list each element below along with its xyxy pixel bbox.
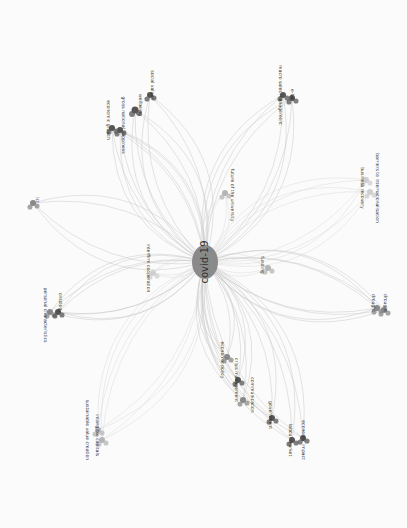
edge bbox=[132, 110, 205, 262]
edge bbox=[135, 110, 205, 262]
keyword-node[interactable]: macro sales management bbox=[277, 65, 289, 125]
node-circle bbox=[27, 204, 32, 209]
keyword-node[interactable]: ict bbox=[27, 197, 39, 209]
node-label: communication bbox=[250, 377, 255, 413]
center-node-label: covid-19 bbox=[199, 241, 210, 284]
network-diagram: economic growthgross national happinessw… bbox=[0, 0, 407, 528]
node-circle bbox=[239, 380, 244, 385]
node-circle bbox=[34, 203, 39, 208]
node-label: drought bbox=[383, 294, 388, 312]
edge bbox=[142, 95, 205, 262]
node-label: macro sales management bbox=[278, 65, 283, 125]
keyword-node[interactable]: social values bbox=[144, 70, 156, 101]
node-circle bbox=[144, 96, 149, 101]
keyword-node[interactable]: government bbox=[266, 401, 278, 429]
keyword-node[interactable]: economic policy bbox=[220, 341, 234, 378]
edge bbox=[205, 262, 292, 440]
edge bbox=[58, 262, 205, 319]
node-label: gross national happiness bbox=[121, 96, 126, 154]
keyword-node[interactable]: economic impact bbox=[297, 420, 309, 460]
node-circle bbox=[378, 311, 383, 316]
node-circle bbox=[219, 194, 224, 199]
keyword-node[interactable]: business recovery bbox=[360, 167, 373, 209]
node-label: e-bar bbox=[290, 89, 295, 101]
edge bbox=[205, 95, 286, 262]
node-label: ict bbox=[35, 197, 40, 203]
node-label: drought bbox=[371, 294, 376, 312]
keyword-node[interactable]: future of the university bbox=[219, 169, 234, 222]
edge bbox=[120, 130, 205, 262]
node-label: interfirm cooperation bbox=[146, 244, 151, 293]
node-circle bbox=[52, 313, 57, 318]
node-label: personal characteristics bbox=[43, 288, 48, 344]
edge bbox=[205, 250, 384, 310]
edge bbox=[101, 262, 205, 440]
node-circle bbox=[273, 418, 278, 423]
node-circle bbox=[269, 268, 274, 273]
node-label: social values bbox=[150, 70, 155, 100]
edge bbox=[205, 262, 292, 440]
node-circle bbox=[244, 400, 249, 405]
keyword-node[interactable]: interfirm cooperation bbox=[146, 244, 160, 293]
node-label: intangible capitals bbox=[95, 414, 100, 457]
keyword-node[interactable]: gross national happiness bbox=[114, 96, 126, 154]
node-label: future of the university bbox=[230, 169, 235, 222]
edge bbox=[202, 95, 283, 262]
node-circle bbox=[237, 401, 242, 406]
node-label: business recovery bbox=[360, 167, 365, 209]
edge bbox=[120, 130, 205, 262]
node-label: sustainable value creation bbox=[85, 400, 90, 461]
edge bbox=[205, 262, 276, 418]
edge bbox=[102, 262, 205, 440]
edge bbox=[102, 262, 206, 440]
keyword-node[interactable]: wellbeing bbox=[129, 94, 143, 117]
edge bbox=[148, 95, 205, 262]
node-label: economic policy bbox=[220, 341, 225, 378]
node-circle bbox=[59, 312, 64, 317]
edge bbox=[33, 195, 205, 262]
edge bbox=[102, 262, 205, 440]
node-circle bbox=[154, 273, 159, 278]
node-label: labour market bbox=[288, 424, 293, 457]
node-circle bbox=[129, 111, 135, 117]
node-circle bbox=[103, 440, 108, 445]
edge bbox=[120, 130, 205, 262]
node-label: barriers to internationalisation bbox=[375, 153, 380, 223]
edge bbox=[33, 201, 205, 262]
node-label: economic growth bbox=[106, 100, 111, 140]
edge bbox=[205, 262, 377, 312]
edge bbox=[135, 110, 205, 262]
edge bbox=[50, 262, 205, 320]
node-label: economic impact bbox=[301, 420, 306, 460]
node-circle bbox=[367, 180, 372, 185]
node-label: funding bbox=[260, 256, 265, 274]
node-label: ontology bbox=[58, 293, 63, 313]
node-circle bbox=[114, 131, 119, 136]
edge bbox=[205, 95, 283, 262]
node-circle bbox=[364, 193, 369, 198]
node-label: wellbeing bbox=[138, 94, 143, 116]
keyword-node[interactable]: labour market bbox=[286, 424, 298, 457]
keyword-node[interactable]: ontology bbox=[52, 293, 64, 319]
edge bbox=[33, 203, 205, 264]
edge bbox=[205, 95, 283, 262]
edge bbox=[205, 262, 295, 440]
node-label: government bbox=[268, 401, 273, 429]
node-label: crisis management bbox=[234, 358, 239, 402]
keyword-node[interactable]: barriers to internationalisation bbox=[364, 153, 379, 223]
edge bbox=[50, 254, 205, 312]
edge bbox=[120, 130, 205, 262]
node-circle bbox=[228, 357, 233, 362]
